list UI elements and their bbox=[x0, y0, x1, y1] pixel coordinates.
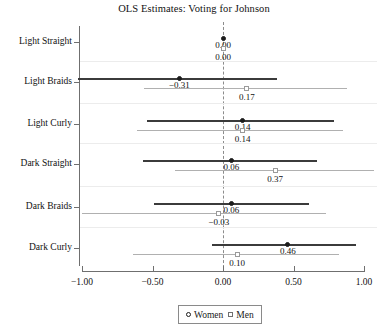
y-axis-tick bbox=[74, 82, 79, 83]
band-gridline bbox=[80, 227, 377, 228]
x-axis-tick-label: 0.50 bbox=[264, 277, 324, 287]
circle-marker-icon bbox=[186, 312, 191, 317]
confidence-interval-bar bbox=[82, 213, 326, 214]
legend-item-label: Men bbox=[236, 310, 253, 320]
x-axis-tick-label: 1.00 bbox=[334, 277, 388, 287]
y-axis-tick bbox=[74, 248, 79, 249]
y-axis-tick-label-light-curly: Light Curly bbox=[27, 118, 72, 128]
y-axis-tick-label-dark-braids: Dark Braids bbox=[26, 201, 72, 211]
estimate-value-label: 0.17 bbox=[227, 92, 267, 102]
estimate-value-label: 0.37 bbox=[255, 174, 295, 184]
x-axis-tick bbox=[153, 266, 154, 271]
y-axis-tick-label-dark-straight: Dark Straight bbox=[21, 158, 72, 168]
legend-item-label: Women bbox=[194, 310, 223, 320]
estimate-value-label: −0.03 bbox=[199, 217, 239, 227]
x-axis-tick-label: −0.50 bbox=[123, 277, 183, 287]
estimate-marker-men bbox=[240, 128, 245, 133]
y-axis-tick-label-light-braids: Light Braids bbox=[24, 76, 72, 86]
estimate-value-label: 0.00 bbox=[203, 52, 243, 62]
x-axis-tick bbox=[294, 266, 295, 271]
chart-legend: WomenMen bbox=[178, 305, 262, 324]
estimate-marker-men bbox=[273, 168, 278, 173]
estimate-value-label: 0.14 bbox=[223, 134, 263, 144]
legend-item-men[interactable]: Men bbox=[228, 310, 253, 320]
x-axis-tick-label: 0.00 bbox=[193, 277, 253, 287]
estimate-marker-men bbox=[244, 86, 249, 91]
y-axis-tick bbox=[74, 207, 79, 208]
band-gridline bbox=[80, 103, 377, 104]
chart-title: OLS Estimates: Voting for Johnson bbox=[0, 3, 388, 14]
x-axis-tick-label: −1.00 bbox=[52, 277, 112, 287]
x-axis-tick bbox=[364, 266, 365, 271]
estimate-marker-men bbox=[216, 211, 221, 216]
legend-item-women[interactable]: Women bbox=[186, 310, 223, 320]
y-axis-tick bbox=[74, 124, 79, 125]
estimate-value-label: 0.10 bbox=[217, 258, 257, 268]
x-axis-spine bbox=[82, 271, 365, 272]
estimate-marker-men bbox=[221, 46, 226, 51]
band-gridline bbox=[80, 186, 377, 187]
y-axis-tick-label-light-straight: Light Straight bbox=[19, 36, 72, 46]
square-marker-icon bbox=[228, 312, 233, 317]
y-axis-tick bbox=[74, 42, 79, 43]
estimate-marker-men bbox=[235, 252, 240, 257]
coefficient-plot: OLS Estimates: Voting for Johnson Light … bbox=[0, 0, 388, 332]
y-axis-tick-label-dark-curly: Dark Curly bbox=[29, 242, 72, 252]
y-axis-tick bbox=[74, 164, 79, 165]
x-axis-tick bbox=[82, 266, 83, 271]
